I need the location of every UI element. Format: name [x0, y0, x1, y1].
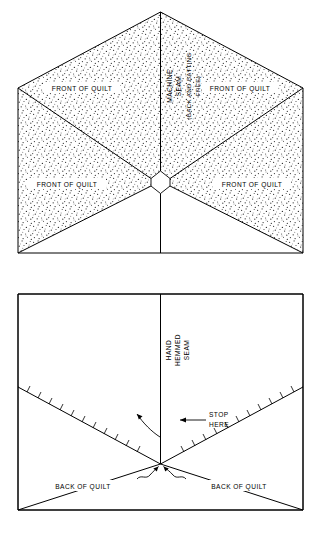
machine-seam-label-line4: FREE)	[194, 76, 201, 96]
figure-hand-hemmed-seam: HAND HEMMED SEAM STOP HERE	[0, 282, 321, 560]
label-front-of-quilt-top-left: FRONT OF QUILT	[52, 85, 113, 93]
label-front-of-quilt-bottom-right: FRONT OF QUILT	[222, 181, 283, 189]
stop-here-line2: HERE	[209, 421, 229, 428]
stop-here-line1: STOP	[209, 411, 229, 418]
diagram-page: MACHINE SEAM (BACK AND BATTING FREE) FRO…	[0, 0, 321, 560]
hand-hemmed-label-line1: HAND	[165, 340, 172, 360]
machine-seam-label-line3: (BACK AND BATTING	[185, 52, 192, 119]
label-back-of-quilt-left: BACK OF QUILT	[55, 483, 111, 491]
label-front-of-quilt-bottom-left: FRONT OF QUILT	[37, 181, 98, 189]
label-front-of-quilt-top-right: FRONT OF QUILT	[210, 85, 271, 93]
machine-seam-label-line1: MACHINE	[166, 69, 173, 103]
hand-hemmed-label-line2: HEMMED	[174, 334, 181, 366]
label-back-of-quilt-right: BACK OF QUILT	[211, 483, 267, 491]
machine-seam-label-line2: SEAM	[175, 76, 182, 97]
figure-machine-seam: MACHINE SEAM (BACK AND BATTING FREE) FRO…	[0, 0, 321, 280]
hand-hemmed-label-line3: SEAM	[183, 340, 190, 361]
